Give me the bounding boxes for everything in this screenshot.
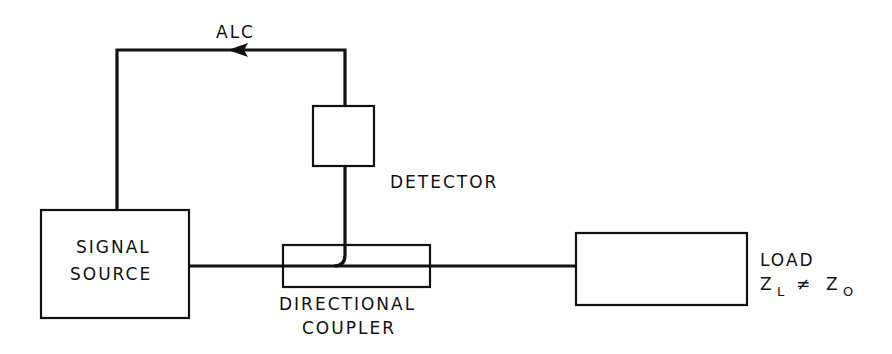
load-z-right: Z (826, 274, 840, 294)
signal-source-line2: SOURCE (70, 264, 152, 284)
not-equal-icon: ≠ (796, 274, 812, 294)
alc-label: ALC (216, 22, 255, 42)
detector-to-coupler-line (334, 166, 345, 266)
load-label: LOAD (760, 250, 815, 270)
coupler-line2: COUPLER (302, 318, 396, 338)
load-box (576, 233, 747, 305)
load-z-left: Z (760, 274, 774, 294)
alc-feedback-line (117, 50, 345, 209)
block-diagram: ALC DETECTOR SIGNAL SOURCE DIRECTIONAL C… (0, 0, 892, 354)
detector-box (313, 106, 374, 166)
signal-source-line1: SIGNAL (76, 237, 151, 257)
load-z-right-sub: O (843, 284, 853, 299)
detector-label: DETECTOR (390, 172, 498, 192)
load-z-left-sub: L (777, 284, 785, 299)
coupler-line1: DIRECTIONAL (279, 294, 416, 314)
